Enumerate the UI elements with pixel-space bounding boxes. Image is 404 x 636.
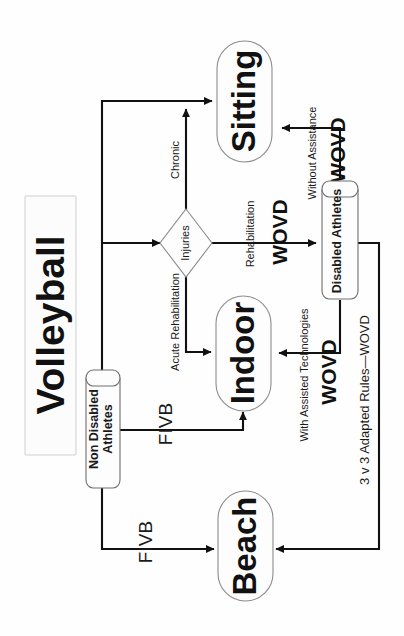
node-disabled-athletes[interactable]: Disabled Athletes [322, 181, 358, 299]
node-label-sitting: Sitting [225, 50, 262, 153]
edge-label-wovd-sitting: WOVD [326, 117, 349, 182]
page-title-text: Volleyball [29, 235, 72, 414]
node-label-injuries: Injuries [179, 225, 191, 261]
edge-label-chronic: Chronic [169, 141, 181, 179]
edge-label-without-assistance: Without Assistance [306, 107, 318, 200]
node-label-non-disabled-line1: Non Disabled [87, 389, 101, 469]
node-label-disabled-athletes: Disabled Athletes [330, 189, 344, 293]
node-sitting[interactable]: Sitting [217, 41, 272, 162]
node-injuries[interactable]: Injuries [160, 209, 212, 277]
edge-label-three-v-three: 3 v 3 Adapted Rules—WOVD [357, 315, 372, 485]
edge-nda-to-injuries [102, 243, 160, 370]
edge-label-fivb-beach: FIVB [135, 521, 156, 563]
edge-nda-to-beach: FIVB [102, 488, 214, 563]
edge-label-acute-rehabilitation: Acute Rehabilitation [169, 273, 181, 371]
node-label-non-disabled-line2: Athletes [101, 404, 115, 453]
node-beach[interactable]: Beach [218, 491, 273, 601]
node-indoor[interactable]: Indoor [216, 296, 271, 411]
edge-nda-to-indoor: FIVB [120, 403, 243, 445]
edge-label-wovd-rehabilitation: WOVD [268, 199, 291, 264]
edge-label-with-assisted-technologies: With Assisted Technologies [298, 308, 310, 442]
page-title: Volleyball [25, 196, 76, 455]
edge-label-rehabilitation: Rehabilitation [244, 201, 256, 268]
edge-injuries-to-disabled: Rehabilitation WOVD [212, 199, 316, 267]
edge-injuries-to-indoor: Acute Rehabilitation [169, 268, 211, 371]
node-non-disabled-athletes[interactable]: Non Disabled Athletes [86, 370, 120, 488]
diagram-canvas: Volleyball FIVB FIVB Chronic Acu [0, 0, 404, 636]
edge-label-fivb-indoor: FIVB [155, 403, 176, 445]
edge-disabled-to-indoor: With Assisted Technologies WOVD [279, 300, 340, 442]
node-label-indoor: Indoor [224, 302, 261, 405]
node-label-beach: Beach [226, 496, 263, 595]
edge-label-wovd-indoor: WOVD [317, 339, 340, 404]
flowchart-svg: Volleyball FIVB FIVB Chronic Acu [0, 0, 404, 636]
